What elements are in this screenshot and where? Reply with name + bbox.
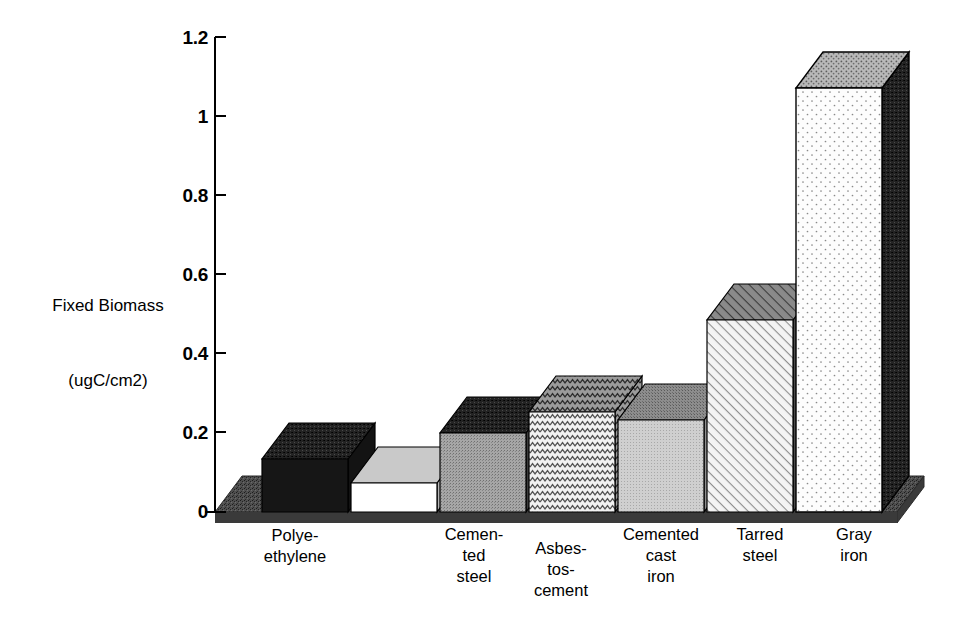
bar-polyethylene-front (262, 459, 348, 512)
bar-gray-iron (796, 52, 909, 512)
bar-gray-iron-side (882, 52, 909, 512)
bar-cemented-cast-iron-front (618, 420, 704, 512)
bar-asbestos-cement-front (529, 412, 615, 512)
bar-tarred-steel-front (707, 320, 793, 512)
bar-gray-iron-front (796, 88, 882, 512)
chart-figure: Fixed Biomass (ugC/cm2) 1.2 1 0.8 0.6 0.… (0, 0, 954, 617)
y-axis (205, 37, 226, 512)
bar-cemented-steel-front (440, 433, 526, 512)
bar-pvc-front (351, 483, 437, 512)
chart-plot-area (0, 0, 954, 617)
floor-front-edge (215, 512, 897, 523)
